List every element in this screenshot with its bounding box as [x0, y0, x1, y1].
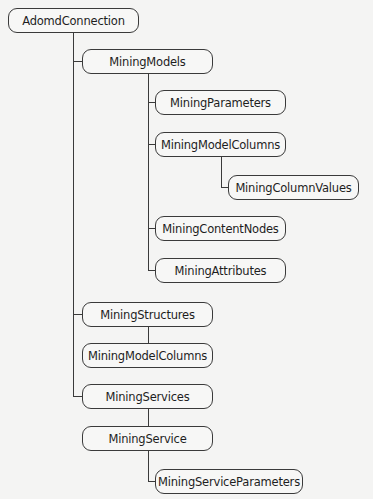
- connector-mining-models-trunk: [148, 74, 149, 271]
- connector-to-mining-column-values: [221, 187, 228, 188]
- node-mining-services: MiningServices: [82, 384, 213, 409]
- connector-to-mining-services: [73, 396, 82, 397]
- object-hierarchy-diagram: AdomdConnection MiningModels MiningParam…: [0, 0, 373, 499]
- node-mining-structures: MiningStructures: [82, 302, 213, 327]
- node-mining-service: MiningService: [82, 426, 213, 451]
- node-mining-parameters: MiningParameters: [155, 90, 286, 115]
- node-adomd-connection: AdomdConnection: [8, 8, 139, 33]
- connector-to-mining-content-nodes: [148, 228, 155, 229]
- connector-mining-service-trunk: [148, 451, 149, 482]
- connector-root-trunk: [73, 33, 74, 397]
- node-mining-models: MiningModels: [82, 49, 213, 74]
- connector-to-mining-structures: [73, 314, 82, 315]
- node-mining-content-nodes: MiningContentNodes: [155, 216, 286, 241]
- node-mining-service-parameters: MiningServiceParameters: [155, 469, 303, 494]
- connector-to-mining-models: [73, 61, 82, 62]
- connector-to-mining-parameters: [148, 102, 155, 103]
- connector-to-mining-attributes: [148, 270, 155, 271]
- connector-to-mining-model-columns-1: [148, 144, 155, 145]
- node-mining-column-values: MiningColumnValues: [228, 175, 359, 200]
- node-mining-attributes: MiningAttributes: [155, 258, 286, 283]
- node-mining-model-columns: MiningModelColumns: [155, 132, 286, 157]
- connector-to-mining-service-parameters: [148, 481, 155, 482]
- node-mining-model-columns-structure: MiningModelColumns: [82, 343, 213, 368]
- connector-structures-to-columns: [148, 327, 149, 343]
- connector-mining-model-columns-trunk: [221, 157, 222, 188]
- connector-services-to-service: [148, 409, 149, 426]
